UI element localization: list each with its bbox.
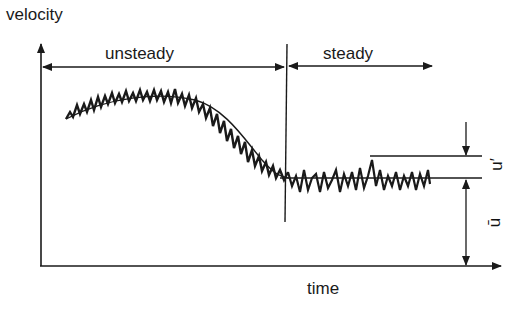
steady-velocity-signal (288, 160, 430, 192)
unsteady-region-label: unsteady (105, 45, 174, 62)
mean-velocity-label: ū (486, 218, 503, 227)
mean-velocity-curve (66, 96, 290, 178)
regime-divider-line (285, 44, 287, 222)
steady-region-label: steady (323, 45, 373, 62)
fluctuation-label: u′ (488, 158, 505, 171)
y-axis-label: velocity (6, 6, 63, 23)
x-axis-label: time (307, 280, 339, 297)
diagram-canvas (0, 0, 531, 311)
unsteady-velocity-signal (66, 89, 288, 180)
